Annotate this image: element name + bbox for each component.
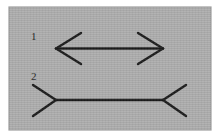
muller-lyer-diagram: 1 2	[0, 0, 220, 137]
figure-2-label: 2	[31, 70, 37, 82]
figure-1-label: 1	[31, 30, 37, 42]
illusion-figure-canvas: 1 2	[0, 0, 220, 137]
